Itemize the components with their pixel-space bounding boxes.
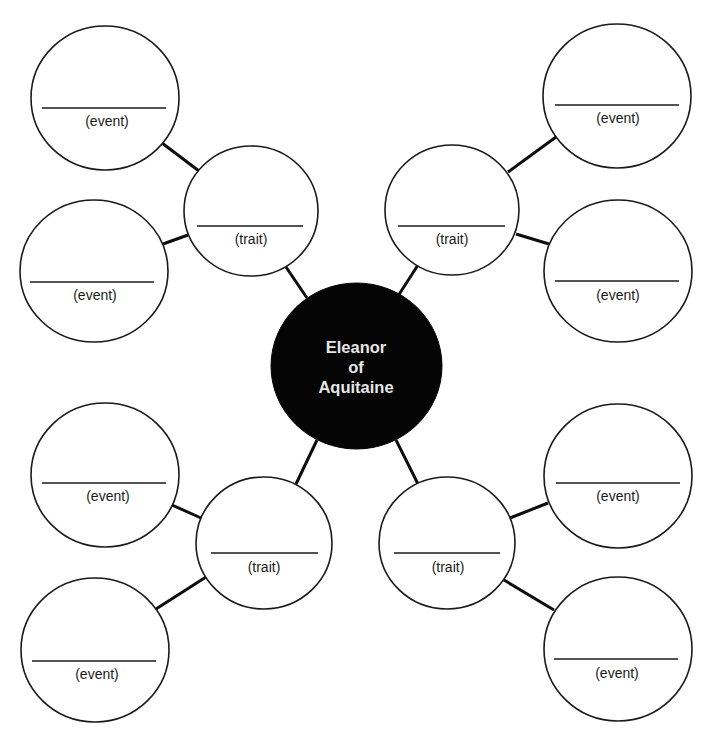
center-label-line-3: Aquitaine [318,378,393,396]
center-label-line-2: of [348,358,364,376]
trait-circle [385,145,519,275]
branch-bottom-right: (trait) (event) (event) [379,404,692,721]
trait-circle [184,146,318,276]
event-label: (event) [596,110,640,126]
event-node[interactable]: (event) [20,200,168,342]
event-circle [544,404,692,548]
connector-trait-top-right-to-event-1 [508,137,556,172]
event-node[interactable]: (event) [21,578,169,722]
trait-label: (trait) [432,559,465,575]
connector-trait-bottom-right-to-event-1 [510,503,548,518]
connector-center-to-trait-top-right [398,265,418,296]
connector-center-to-trait-bottom-left [296,440,317,484]
connector-center-to-trait-top-left [286,267,307,298]
branch-bottom-left: (trait) (event) (event) [21,403,332,722]
event-circle [543,24,691,168]
event-label: (event) [75,666,119,682]
trait-node[interactable]: (trait) [196,477,332,609]
trait-circle [196,477,332,609]
trait-node[interactable]: (trait) [379,477,515,609]
event-circle [21,578,169,722]
event-circle [544,200,692,342]
event-node[interactable]: (event) [544,577,692,721]
event-node[interactable]: (event) [543,24,691,168]
event-node[interactable]: (event) [544,200,692,342]
connector-trait-top-right-to-event-2 [516,234,549,244]
trait-node[interactable]: (trait) [385,145,519,275]
connector-trait-top-left-to-event-2 [163,235,188,244]
event-circle [31,26,179,170]
trait-circle [379,477,515,609]
connector-trait-bottom-left-to-event-1 [172,505,201,518]
event-label: (event) [85,113,129,129]
event-label: (event) [596,287,640,303]
event-node[interactable]: (event) [31,26,179,170]
trait-label: (trait) [248,559,281,575]
event-node[interactable]: (event) [544,404,692,548]
event-circle [544,577,692,721]
connector-trait-bottom-left-to-event-2 [156,577,206,609]
center-node: Eleanor of Aquitaine [271,283,442,449]
event-label: (event) [596,488,640,504]
event-circle [20,200,168,342]
trait-node[interactable]: (trait) [184,146,318,276]
connector-trait-top-left-to-event-1 [162,143,199,171]
trait-label: (trait) [436,231,469,247]
event-label: (event) [595,665,639,681]
center-label-line-1: Eleanor [326,338,387,356]
branch-top-right: (trait) (event) (event) [385,24,692,342]
event-label: (event) [73,287,117,303]
eleanor-character-web-diagram: Eleanor of Aquitaine (trait) (event) (ev… [0,0,713,738]
branch-top-left: (trait) (event) (event) [20,26,318,342]
connector-trait-bottom-right-to-event-2 [504,580,554,610]
trait-label: (trait) [235,231,268,247]
event-node[interactable]: (event) [31,403,179,547]
event-label: (event) [86,488,130,504]
connector-center-to-trait-bottom-right [396,440,418,484]
event-circle [31,403,179,547]
